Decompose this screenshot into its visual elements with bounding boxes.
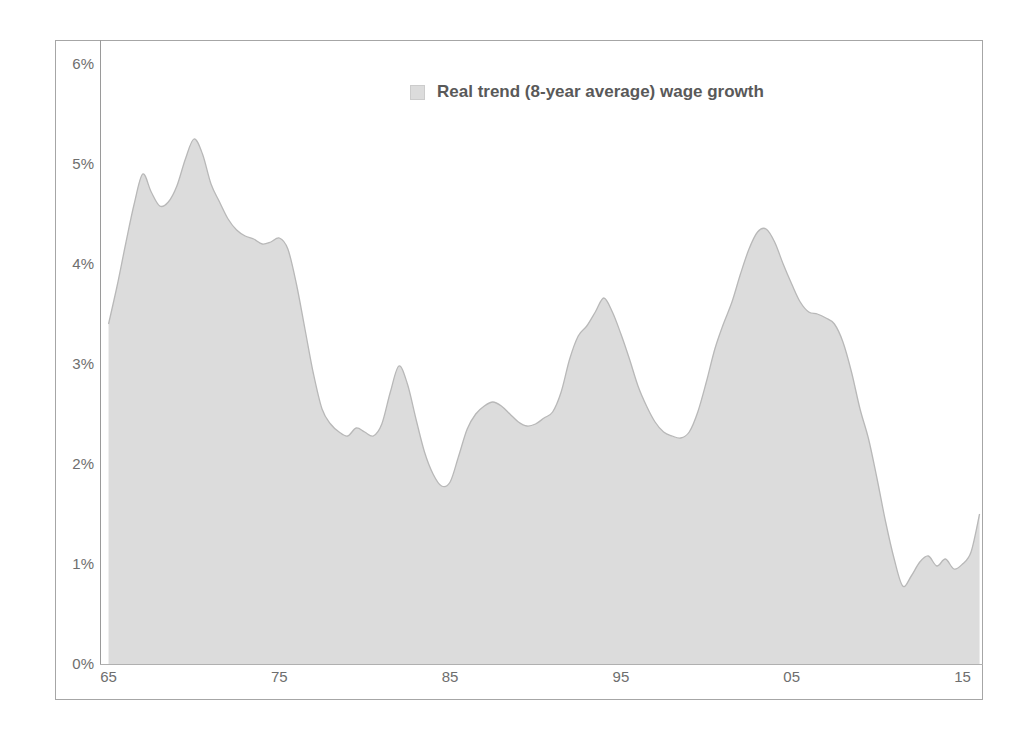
area-series-path [109, 139, 980, 664]
y-axis-tick-label: 4% [50, 255, 94, 272]
x-axis-line [100, 664, 983, 665]
x-axis-tick-label: 65 [79, 668, 139, 685]
legend-label: Real trend (8-year average) wage growth [437, 82, 764, 102]
x-axis-tick-label: 95 [591, 668, 651, 685]
x-axis-tick-label: 75 [249, 668, 309, 685]
legend-swatch-icon [410, 85, 425, 100]
chart-figure: 6%5%4%3%2%1%0% 657585950515 Real trend (… [0, 0, 1036, 745]
y-axis-tick-label: 6% [50, 55, 94, 72]
y-axis-tick-label: 3% [50, 355, 94, 372]
x-axis-tick-label: 15 [933, 668, 993, 685]
x-axis-tick-label: 05 [762, 668, 822, 685]
plot-area [100, 64, 983, 664]
y-axis-tick-label: 1% [50, 555, 94, 572]
y-axis-tick-label: 2% [50, 455, 94, 472]
x-axis-tick-label: 85 [420, 668, 480, 685]
y-axis-tick-label: 5% [50, 155, 94, 172]
area-series-svg [100, 64, 983, 664]
chart-legend: Real trend (8-year average) wage growth [410, 82, 764, 102]
y-axis-tick-labels: 6%5%4%3%2%1%0% [46, 0, 94, 745]
